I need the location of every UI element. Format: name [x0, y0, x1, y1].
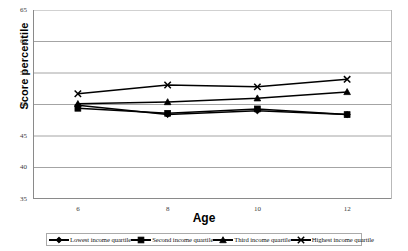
x-marker [291, 235, 311, 244]
series-square [75, 105, 350, 117]
y-tick-label: 65 [1, 7, 27, 14]
plot-area: 35404550556065 681012 [33, 10, 392, 199]
x-marker [298, 236, 304, 242]
y-tick-label: 45 [1, 133, 27, 140]
series-line [78, 92, 347, 104]
legend-label: Second income quartile [151, 236, 213, 243]
gridlines [33, 10, 392, 168]
data-series-layer [75, 76, 351, 118]
diamond-marker [56, 236, 62, 242]
triangle-marker [213, 235, 233, 244]
legend-item-3[interactable]: Highest income quartile [291, 235, 374, 244]
y-tick-label: 50 [1, 101, 27, 108]
series-triangle [75, 89, 351, 107]
x-marker-glyph [295, 234, 306, 245]
square-marker [344, 112, 350, 118]
y-tick-label: 35 [1, 196, 27, 203]
square-marker [138, 237, 144, 243]
legend-item-0[interactable]: Lowest income quartile [49, 235, 131, 244]
x-axis-title: Age [0, 211, 408, 225]
legend-item-1[interactable]: Second income quartile [131, 235, 213, 244]
clipped-title-sliver [6, 0, 266, 4]
legend-label: Third income quartile [233, 236, 290, 243]
line-chart-svg [33, 10, 392, 199]
y-tick-label: 40 [1, 164, 27, 171]
legend-label: Lowest income quartile [69, 236, 131, 243]
triangle-marker [220, 236, 227, 242]
series-line [78, 79, 347, 93]
legend-item-2[interactable]: Third income quartile [213, 235, 290, 244]
square-marker [131, 235, 151, 244]
legend-label: Highest income quartile [311, 236, 374, 243]
diamond-marker [49, 235, 69, 244]
square-marker [165, 110, 171, 116]
diamond-marker-glyph [54, 234, 65, 245]
square-marker-glyph [136, 234, 147, 245]
triangle-marker-glyph [218, 234, 229, 245]
y-tick-label: 60 [1, 38, 27, 45]
chart-figure: Score percentile 35404550556065 681012 A… [0, 0, 408, 251]
chart-legend: Lowest income quartileSecond income quar… [46, 233, 362, 246]
square-marker [254, 106, 260, 112]
y-tick-label: 55 [1, 70, 27, 77]
